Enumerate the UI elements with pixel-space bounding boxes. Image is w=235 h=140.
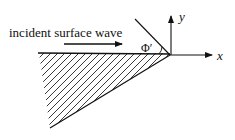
- x-axis-label: x: [216, 48, 223, 63]
- angle-label: Φ′: [141, 41, 153, 55]
- incident-label: incident surface wave: [9, 25, 123, 40]
- wedge-diagram: incident surface wave Φ′ x y: [0, 0, 235, 140]
- diagram-svg: incident surface wave Φ′ x y: [0, 0, 235, 140]
- angle-arc: [159, 47, 162, 54]
- y-axis-label: y: [177, 9, 185, 24]
- hatched-wedge: [0, 50, 180, 140]
